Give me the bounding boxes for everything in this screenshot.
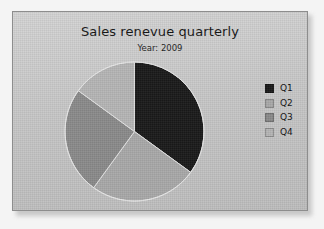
legend-item-q4[interactable]: Q4: [265, 128, 293, 137]
pie-chart: [64, 61, 205, 202]
legend-label-q1: Q1: [280, 84, 293, 93]
legend-swatch-q3: [265, 113, 274, 122]
pie-chart-svg: [64, 61, 205, 202]
legend-item-q1[interactable]: Q1: [265, 84, 293, 93]
legend-swatch-q1: [265, 84, 274, 93]
screenshot-root: Sales renevue quarterly Year: 2009 Q1 Q2…: [0, 0, 324, 229]
legend-item-q3[interactable]: Q3: [265, 113, 293, 122]
legend-item-q2[interactable]: Q2: [265, 99, 293, 108]
legend-swatch-q2: [265, 99, 274, 108]
legend-label-q3: Q3: [280, 113, 293, 122]
chart-legend: Q1 Q2 Q3 Q4: [265, 84, 293, 137]
chart-panel: Sales renevue quarterly Year: 2009 Q1 Q2…: [12, 11, 308, 211]
legend-swatch-q4: [265, 128, 274, 137]
legend-label-q4: Q4: [280, 128, 293, 137]
chart-title: Sales renevue quarterly: [13, 24, 307, 39]
legend-label-q2: Q2: [280, 99, 293, 108]
chart-subtitle: Year: 2009: [13, 43, 307, 53]
